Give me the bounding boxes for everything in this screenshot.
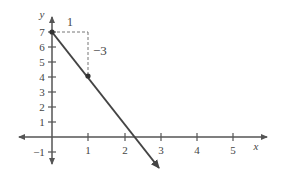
y-tick-label-5: 5 <box>39 56 45 68</box>
rise-label: −3 <box>93 43 107 58</box>
x-tick-label-4: 4 <box>194 144 200 156</box>
y-axis-label: y <box>39 8 45 20</box>
y-tick-label-7: 7 <box>39 26 45 38</box>
x-tick-label-3: 3 <box>158 144 164 156</box>
x-axis-label: x <box>253 140 259 152</box>
y-tick-label-1: 1 <box>39 116 45 128</box>
x-axis: 1 2 3 4 5 x <box>19 133 267 156</box>
y-tick-label-3: 3 <box>39 86 45 98</box>
y-tick-label-4: 4 <box>39 71 45 83</box>
run-label: 1 <box>67 15 73 29</box>
y-tick-label-neg1: −1 <box>33 146 45 158</box>
y-tick-label-2: 2 <box>39 101 45 113</box>
x-tick-label-2: 2 <box>122 144 128 156</box>
coordinate-graph: 1 2 3 4 5 x 7 6 5 4 3 2 1 −1 y 1 <box>0 0 281 177</box>
point-1-4 <box>85 73 90 78</box>
y-tick-label-6: 6 <box>39 41 45 53</box>
x-tick-label-5: 5 <box>230 144 236 156</box>
x-tick-label-1: 1 <box>85 144 91 156</box>
point-0-7 <box>49 29 54 34</box>
